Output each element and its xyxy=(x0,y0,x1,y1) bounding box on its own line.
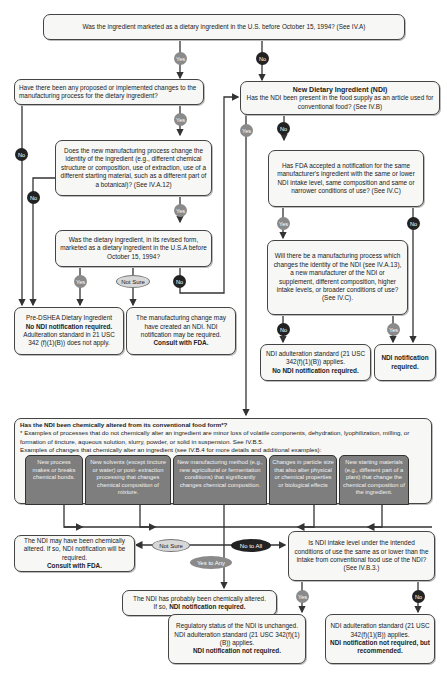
q2-text: Have there been any proposed or implemen… xyxy=(19,84,199,101)
notif-text: NDI notification required. xyxy=(379,354,431,371)
yes-badge: Yes xyxy=(277,217,290,230)
result-pre-dshea: Pre-DSHEA Dietary Ingredient No NDI noti… xyxy=(14,307,124,355)
q-manufacturing-changes: Have there been any proposed or implemen… xyxy=(14,79,204,105)
q4-text: Was the dietary ingredient, in its revis… xyxy=(60,236,207,261)
no-badge: No xyxy=(173,275,186,288)
no-to-all-badge: No to All xyxy=(231,539,271,552)
q1-text: Was the ingredient marketed as a dietary… xyxy=(82,23,365,31)
q3-text: Does the new manufacturing process chang… xyxy=(60,147,207,189)
consult2-line1: The NDI may have been chemically altered… xyxy=(19,537,130,562)
result-consult-fda-1: The manufacturing change may have create… xyxy=(126,307,236,355)
q7-text: Is NDI intake level under the intended c… xyxy=(293,539,430,573)
chem-cell: New solvents (except tincture or water) … xyxy=(85,455,171,505)
yes-to-any-badge: Yes to Any xyxy=(190,556,232,569)
yes-badge: Yes xyxy=(296,590,309,603)
chem-question: Has the NDI been chemically altered from… xyxy=(20,421,426,429)
predshea-line1: Pre-DSHEA Dietary Ingredient xyxy=(26,314,112,322)
result-status-unchanged: Regulatory status of the NDI is unchange… xyxy=(168,614,306,664)
predshea-line2: No NDI notification required. xyxy=(26,323,113,331)
no-badge: No xyxy=(27,191,40,204)
q5-text: Has FDA accepted a notification for the … xyxy=(273,162,419,196)
result-probably-altered: The NDI has probably been chemically alt… xyxy=(122,590,277,616)
altered-line2: If so, NDI notification required. xyxy=(154,603,246,611)
yes-badge: Yes xyxy=(174,52,187,65)
adult1-line2: No NDI notification required. xyxy=(272,367,359,375)
q-manufacturing-process-ndi: Will there be a manufacturing process wh… xyxy=(267,240,408,315)
predshea-line3: Adulteration standard in 21 USC 342 (f)(… xyxy=(19,331,119,348)
consult2-line2: Consult with FDA. xyxy=(47,562,102,570)
ndi-box: New Dietary Ingredient (NDI) Has the NDI… xyxy=(240,81,440,115)
chem-cell: New process makes or breaks chemical bon… xyxy=(25,455,83,505)
unchanged-line1: Regulatory status of the NDI is unchange… xyxy=(173,622,301,647)
chem-example-cells: New process makes or breaks chemical bon… xyxy=(25,455,423,505)
ndi-text: Has the NDI been present in the food sup… xyxy=(245,94,435,111)
q-marketed-before-1994: Was the ingredient marketed as a dietary… xyxy=(43,14,405,40)
result-recommended: NDI adulteration standard (21 USC 342(f)… xyxy=(325,614,435,664)
yes-badge: Yes xyxy=(174,204,187,217)
q6-text: Will there be a manufacturing process wh… xyxy=(272,252,403,303)
yes-badge: Yes xyxy=(74,275,87,288)
q-identity-change: Does the new manufacturing process chang… xyxy=(55,140,212,196)
no-badge: No xyxy=(277,323,290,336)
q-intake-level: Is NDI intake level under the intended c… xyxy=(288,531,435,581)
chem-cell: New starting materials (e.g., different … xyxy=(339,455,409,505)
result-adulteration-standard-1: NDI adulteration standard (21 USC 342(f)… xyxy=(260,344,371,381)
ndi-title: New Dietary Ingredient (NDI) xyxy=(293,85,388,94)
adult1-line1: NDI adulteration standard (21 USC 342(f)… xyxy=(265,350,366,367)
altered-line1: The NDI has probably been chemically alt… xyxy=(133,595,266,603)
chem-cell: New manufacturing method (e.g., new agri… xyxy=(173,455,267,505)
chem-cell: Changes in particle size that also alter… xyxy=(269,455,337,505)
yes-badge: Yes xyxy=(174,113,187,126)
not-sure-badge: Not Sure xyxy=(152,539,190,552)
altered-line2-bold: NDI notification required. xyxy=(169,603,245,610)
no-badge: No xyxy=(15,148,28,161)
recommended-line1: NDI adulteration standard (21 USC 342(f)… xyxy=(330,622,430,639)
chem-note: * Examples of processes that do not chem… xyxy=(20,429,426,446)
result-consult-fda-2: The NDI may have been chemically altered… xyxy=(14,535,135,572)
yes-badge: Yes xyxy=(240,124,253,137)
recommended-line2: NDI notification not required, but recom… xyxy=(330,639,430,656)
chem-examples-intro: Examples of changes that chemically alte… xyxy=(20,446,426,454)
q-revised-form-marketed: Was the dietary ingredient, in its revis… xyxy=(55,230,212,267)
altered-line2-prefix: If so, xyxy=(154,603,170,610)
no-badge: No xyxy=(277,122,290,135)
consult1-line1: The manufacturing change may have create… xyxy=(131,314,231,339)
no-badge: No xyxy=(256,52,269,65)
unchanged-line2: NDI notification not required. xyxy=(193,647,281,655)
q-fda-accepted-notification: Has FDA accepted a notification for the … xyxy=(268,150,424,207)
not-sure-badge: Not Sure xyxy=(116,275,150,288)
no-badge: No xyxy=(407,217,420,230)
chemically-altered-box: Has the NDI been chemically altered from… xyxy=(14,418,432,504)
yes-badge: Yes xyxy=(387,323,400,336)
no-badge: No xyxy=(412,590,425,603)
result-notification-required: NDI notification required. xyxy=(374,344,436,381)
consult1-line2: Consult with FDA. xyxy=(153,339,208,347)
